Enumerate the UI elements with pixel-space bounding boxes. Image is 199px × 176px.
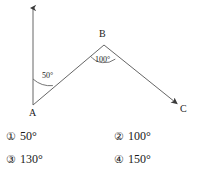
option-marker-4: ④ <box>114 152 124 166</box>
option-text-3: 130° <box>20 152 43 166</box>
option-row-1: ① 50° ② 100° <box>0 127 199 151</box>
angle-arc-A <box>33 79 53 86</box>
question-figure: A B C 50° 100° ① 50° ② 100° ③ 130° ④ 150… <box>0 0 199 176</box>
option-marker-2: ② <box>114 129 124 143</box>
angle-label-a: 50° <box>42 72 53 80</box>
option-marker-3: ③ <box>6 152 16 166</box>
angle-diagram: A B C 50° 100° <box>0 0 199 124</box>
vertex-label-b: B <box>99 29 106 39</box>
angle-label-b: 100° <box>95 56 110 64</box>
option-text-1: 50° <box>20 129 37 143</box>
ray-B-C <box>104 45 175 102</box>
option-row-2: ③ 130° ④ 150° <box>0 150 199 174</box>
vertex-label-a: A <box>29 108 36 118</box>
option-text-2: 100° <box>128 129 151 143</box>
answer-option-4[interactable]: ④ 150° <box>114 152 151 166</box>
vertex-label-c: C <box>180 104 187 114</box>
answer-option-3[interactable]: ③ 130° <box>6 152 43 166</box>
answer-option-2[interactable]: ② 100° <box>114 129 151 143</box>
answer-options: ① 50° ② 100° ③ 130° ④ 150° <box>0 124 199 176</box>
option-text-4: 150° <box>128 152 151 166</box>
option-marker-1: ① <box>6 129 16 143</box>
answer-option-1[interactable]: ① 50° <box>6 129 37 143</box>
